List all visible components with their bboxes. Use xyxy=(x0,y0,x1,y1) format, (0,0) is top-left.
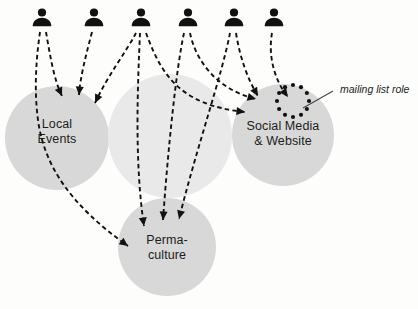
person-body-icon xyxy=(132,18,151,27)
role-dot xyxy=(299,113,303,117)
role-dot xyxy=(305,107,309,111)
role-dot xyxy=(275,99,279,103)
role-dot xyxy=(307,99,311,103)
role-dot xyxy=(277,91,281,95)
role-dot xyxy=(305,91,309,95)
role-dot xyxy=(299,85,303,89)
person-icon-person-6 xyxy=(265,8,284,26)
person-head-icon xyxy=(137,8,145,16)
person-head-icon xyxy=(38,8,46,16)
role-dot xyxy=(277,107,281,111)
connection-person-2-to-local-events xyxy=(79,32,92,95)
role-dot xyxy=(291,115,295,119)
person-icon-person-2 xyxy=(85,8,104,26)
person-icon-person-1 xyxy=(33,8,52,26)
diagram-svg xyxy=(0,0,418,309)
person-body-icon xyxy=(33,18,52,27)
person-icon-person-4 xyxy=(179,8,198,26)
role-dot xyxy=(283,113,287,117)
mailing-list-role-label: mailing list role xyxy=(340,83,409,95)
person-body-icon xyxy=(179,18,198,27)
diagram-canvas: Local Events Social Media & Website Perm… xyxy=(0,0,418,309)
role-dot xyxy=(291,83,295,87)
person-head-icon xyxy=(270,8,278,16)
person-body-icon xyxy=(265,18,284,27)
person-head-icon xyxy=(90,8,98,16)
connection-person-5-to-social-media xyxy=(236,33,258,96)
person-icon-person-3 xyxy=(132,8,151,26)
person-body-icon xyxy=(85,18,104,27)
person-body-icon xyxy=(225,18,244,27)
person-head-icon xyxy=(184,8,192,16)
circles-layer xyxy=(5,74,334,296)
people-layer xyxy=(33,8,284,26)
person-icon-person-5 xyxy=(225,8,244,26)
role-dot xyxy=(283,85,287,89)
person-head-icon xyxy=(230,8,238,16)
